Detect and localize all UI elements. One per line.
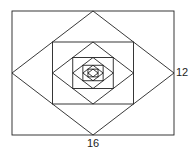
rhombus-level-4 [83, 65, 103, 81]
rhombus-level-3 [73, 58, 114, 89]
rectangle-level-5 [88, 69, 98, 77]
width-label: 16 [87, 137, 99, 149]
nested-shapes-diagram [0, 0, 196, 154]
rhombus-level-1 [12, 11, 174, 135]
rhombus-level-5 [88, 69, 98, 77]
height-label: 12 [176, 66, 188, 78]
rectangle-level-1 [12, 11, 174, 135]
rhombus-level-2 [53, 42, 134, 104]
rectangle-level-4 [83, 65, 103, 81]
rectangle-level-2 [53, 42, 134, 104]
rectangle-level-3 [73, 58, 114, 89]
